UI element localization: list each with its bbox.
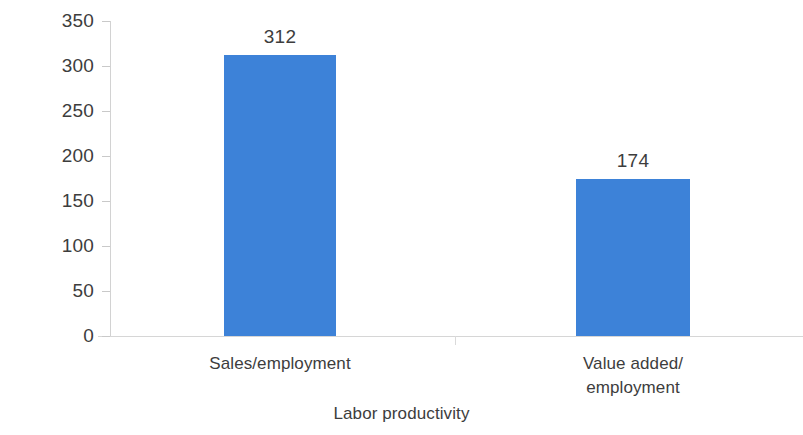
y-axis-tick <box>102 66 110 67</box>
x-axis-category-label-line: Value added/ <box>523 352 743 376</box>
y-axis-tick-label: 350 <box>0 10 94 32</box>
y-axis-tick <box>102 336 110 337</box>
y-axis-tick-label: 100 <box>0 235 94 257</box>
y-axis-tick-label: 200 <box>0 145 94 167</box>
y-axis-tick <box>102 246 110 247</box>
y-axis-tick-label: 0 <box>0 325 94 347</box>
x-axis-line <box>98 336 803 337</box>
x-axis-title: Labor productivity <box>0 404 803 424</box>
y-axis-tick <box>102 291 110 292</box>
y-axis-line <box>110 21 111 336</box>
y-axis-tick-label: 300 <box>0 55 94 77</box>
bar-chart: Productivity premium (%) 050100150200250… <box>0 0 803 435</box>
y-axis-tick <box>102 201 110 202</box>
y-axis-tick <box>102 21 110 22</box>
y-axis-tick <box>102 156 110 157</box>
y-axis-tick-label: 50 <box>0 280 94 302</box>
bar[interactable] <box>224 55 336 336</box>
y-axis-tick-label: 150 <box>0 190 94 212</box>
bar-value-label: 312 <box>220 26 340 48</box>
x-axis-category-label-line: Sales/employment <box>170 352 390 376</box>
x-axis-category-label: Value added/employment <box>523 352 743 400</box>
x-axis-category-separator-tick <box>455 336 456 345</box>
y-axis-tick-label: 250 <box>0 100 94 122</box>
bar[interactable] <box>576 179 690 336</box>
y-axis-tick <box>102 111 110 112</box>
x-axis-category-label: Sales/employment <box>170 352 390 376</box>
bar-value-label: 174 <box>573 150 693 172</box>
x-axis-category-label-line: employment <box>523 376 743 400</box>
